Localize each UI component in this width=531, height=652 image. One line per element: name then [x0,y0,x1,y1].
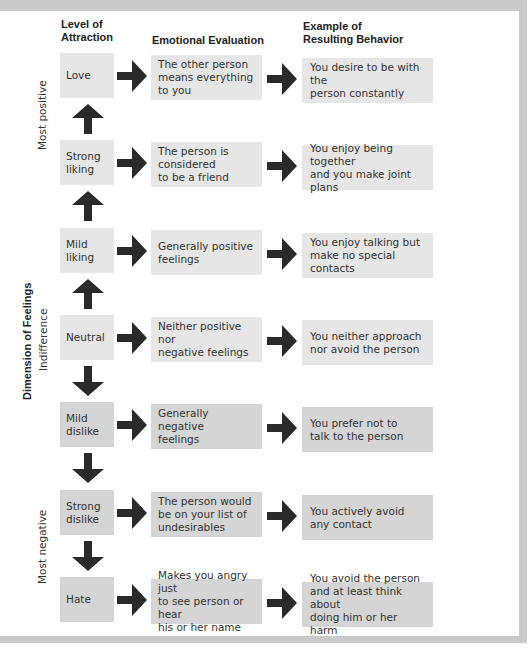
behavior-text: You enjoy talking but make no special co… [310,236,425,275]
evaluation-text: The other person means everything to you [158,58,253,97]
arrow-right-icon [267,412,297,444]
arrow-down-icon [72,453,104,483]
evaluation-box: Makes you angry just to see person or he… [151,579,262,624]
behavior-text: You neither approach nor avoid the perso… [310,330,422,356]
behavior-text: You desire to be with the person constan… [310,61,425,100]
arrow-down-icon [72,366,104,396]
evaluation-text: The person is considered to be a friend [158,145,229,184]
arrow-right-icon [267,325,297,357]
level-label: Strong dislike [66,500,101,526]
evaluation-box: Generally negative feelings [151,404,262,449]
evaluation-text: Neither positive nor negative feelings [158,320,255,359]
arrow-up-icon [72,104,104,134]
arrow-right-icon [117,584,147,616]
evaluation-box: Neither positive nor negative feelings [151,317,262,362]
evaluation-box: Generally positive feelings [151,230,262,275]
evaluation-box: The person is considered to be a friend [151,142,262,187]
arrow-up-icon [72,279,104,309]
arrow-right-icon [117,322,147,354]
level-box: Neutral [60,315,114,360]
frame-top-border [0,0,527,11]
arrow-right-icon [267,587,297,619]
arrow-right-icon [267,238,297,270]
behavior-text: You enjoy being together and you make jo… [310,142,425,194]
behavior-text: You actively avoid any contact [310,505,404,531]
header-level-of-attraction: Level of Attraction [61,18,141,44]
arrow-up-icon [72,191,104,221]
evaluation-text: Generally negative feelings [158,407,255,446]
arrow-right-icon [267,150,297,182]
arrow-right-icon [267,500,297,532]
evaluation-text: The person would be on your list of unde… [158,495,251,534]
level-box: Mild liking [60,228,114,273]
arrow-right-icon [117,60,147,92]
arrow-right-icon [117,235,147,267]
arrow-right-icon [267,63,297,95]
axis-title-dimension-of-feelings: Dimension of Feelings [21,283,33,400]
level-label: Love [66,69,91,82]
arrow-right-icon [117,147,147,179]
arrow-right-icon [117,409,147,441]
behavior-box: You neither approach nor avoid the perso… [302,320,433,365]
header-resulting-behavior: Example of Resulting Behavior [303,20,453,46]
frame-right-border [519,11,527,643]
behavior-box: You enjoy talking but make no special co… [302,233,433,278]
axis-label-most-positive: Most positive [36,80,48,150]
level-box: Strong liking [60,140,114,185]
level-box: Love [60,53,114,98]
behavior-box: You enjoy being together and you make jo… [302,145,433,190]
behavior-box: You avoid the person and at least think … [302,582,433,627]
evaluation-box: The other person means everything to you [151,55,262,100]
arrow-right-icon [117,497,147,529]
level-label: Hate [66,593,91,606]
level-box: Hate [60,577,114,622]
header-emotional-evaluation: Emotional Evaluation [152,34,292,47]
behavior-box: You actively avoid any contact [302,495,433,540]
level-label: Strong liking [66,150,101,176]
evaluation-text: Makes you angry just to see person or he… [158,569,255,634]
level-box: Mild dislike [60,402,114,447]
level-label: Neutral [66,331,105,344]
level-label: Mild dislike [66,412,99,438]
arrow-down-icon [72,541,104,571]
level-label: Mild liking [66,238,94,264]
frame-bottom-border [0,636,527,643]
axis-label-indifference: Indifference [37,309,49,371]
evaluation-box: The person would be on your list of unde… [151,492,262,537]
behavior-text: You prefer not to talk to the person [310,417,403,443]
behavior-box: You desire to be with the person constan… [302,58,433,103]
axis-label-most-negative: Most negative [36,510,48,584]
evaluation-text: Generally positive feelings [158,240,253,266]
behavior-text: You avoid the person and at least think … [310,572,425,637]
behavior-box: You prefer not to talk to the person [302,407,433,452]
level-box: Strong dislike [60,490,114,535]
